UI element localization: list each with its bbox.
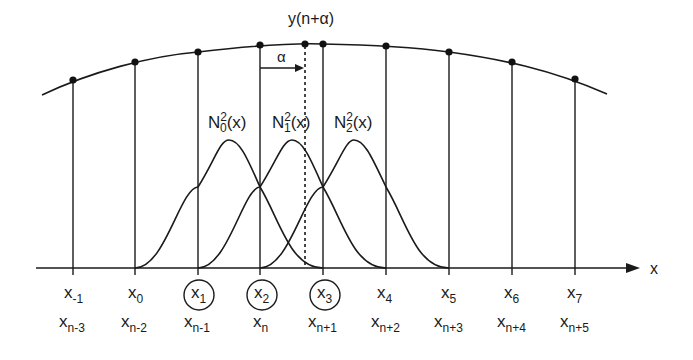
svg-text:xn+3: xn+3 xyxy=(434,312,463,335)
x-axis-label: x xyxy=(650,260,658,277)
svg-text:x4: x4 xyxy=(377,283,393,306)
svg-text:x-1: x-1 xyxy=(64,283,83,306)
b-spline-diagram: α y(n+α) N20(x) N21(x) N22(x) x x-1 x0 xyxy=(0,0,693,360)
alpha-arrow xyxy=(260,64,304,72)
x-axis xyxy=(36,263,640,273)
interpolated-value-label: y(n+α) xyxy=(288,10,334,27)
svg-text:xn-3: xn-3 xyxy=(59,312,85,335)
svg-text:xn-1: xn-1 xyxy=(184,312,210,335)
svg-text:x0: x0 xyxy=(128,283,144,306)
svg-text:xn+2: xn+2 xyxy=(371,312,400,335)
alpha-label: α xyxy=(277,48,286,65)
svg-text:xn+4: xn+4 xyxy=(497,312,526,335)
svg-text:x7: x7 xyxy=(567,283,583,306)
signal-curve xyxy=(42,44,607,95)
svg-text:x6: x6 xyxy=(504,283,520,306)
basis-curves xyxy=(135,140,449,268)
basis-labels: N20(x) N21(x) N22(x) xyxy=(208,110,372,135)
svg-text:xn: xn xyxy=(253,312,268,335)
svg-text:x5: x5 xyxy=(441,283,457,306)
sample-points xyxy=(69,40,578,83)
basis-label-n1: N21(x) xyxy=(272,110,310,135)
knot-labels-bottom: xn-3 xn-2 xn-1 xn xn+1 xn+2 xn+3 xn+4 xn… xyxy=(59,312,589,335)
basis-label-n2: N22(x) xyxy=(334,110,372,135)
svg-text:x2: x2 xyxy=(254,283,270,306)
sample-lines xyxy=(73,44,575,275)
svg-text:xn+5: xn+5 xyxy=(560,312,589,335)
svg-text:x3: x3 xyxy=(317,283,333,306)
svg-text:xn+1: xn+1 xyxy=(308,312,337,335)
basis-curve-n0 xyxy=(135,140,323,268)
svg-text:xn-2: xn-2 xyxy=(121,312,147,335)
knot-labels-top: x-1 x0 x1 x2 x3 x4 x5 x6 x7 xyxy=(64,283,583,306)
svg-text:x1: x1 xyxy=(191,283,207,306)
basis-label-n0: N20(x) xyxy=(208,110,246,135)
